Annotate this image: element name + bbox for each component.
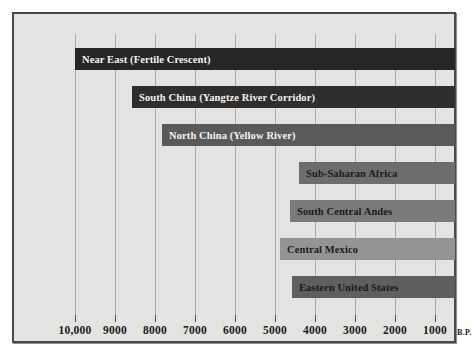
gridline bbox=[155, 34, 156, 315]
gridline bbox=[115, 34, 116, 315]
bar-label: Central Mexico bbox=[280, 244, 358, 255]
bar-south-central-andes: South Central Andes bbox=[290, 200, 455, 222]
bar-central-mexico: Central Mexico bbox=[280, 238, 455, 260]
x-tick-label: 5000 bbox=[263, 324, 287, 336]
x-tick-label: 6000 bbox=[223, 324, 247, 336]
bar-label: Near East (Fertile Crescent) bbox=[75, 54, 211, 65]
x-tick-label: 7000 bbox=[183, 324, 207, 336]
bar-label: Eastern United States bbox=[292, 282, 399, 293]
x-tick bbox=[355, 315, 356, 322]
x-tick-label: 9000 bbox=[103, 324, 127, 336]
gridline bbox=[195, 34, 196, 315]
x-tick bbox=[155, 315, 156, 322]
bar-eastern-united-states: Eastern United States bbox=[292, 276, 455, 298]
x-tick-label: 1000 bbox=[423, 324, 447, 336]
x-tick-label: 4000 bbox=[303, 324, 327, 336]
bar-label: North China (Yellow River) bbox=[162, 130, 296, 141]
bar-label: South Central Andes bbox=[290, 206, 392, 217]
bar-south-china-yangtze-river-corridor: South China (Yangtze River Corridor) bbox=[132, 86, 455, 108]
x-tick bbox=[75, 315, 76, 322]
x-tick-label: 2000 bbox=[383, 324, 407, 336]
x-tick bbox=[435, 315, 436, 322]
bar-label: South China (Yangtze River Corridor) bbox=[132, 92, 315, 103]
x-tick bbox=[315, 315, 316, 322]
plot-area: Near East (Fertile Crescent)South China … bbox=[75, 34, 455, 315]
x-tick bbox=[395, 315, 396, 322]
x-tick bbox=[195, 315, 196, 322]
x-axis-unit-label: B.P. bbox=[457, 328, 472, 337]
x-axis: 10,0009000800070006000500040003000200010… bbox=[75, 315, 455, 355]
x-tick bbox=[235, 315, 236, 322]
bar-near-east-fertile-crescent: Near East (Fertile Crescent) bbox=[75, 48, 455, 70]
gridline bbox=[75, 34, 76, 315]
gridline bbox=[275, 34, 276, 315]
x-tick-label: 10,000 bbox=[59, 324, 92, 336]
x-tick-label: 8000 bbox=[143, 324, 167, 336]
bar-sub-saharan-africa: Sub-Saharan Africa bbox=[299, 162, 455, 184]
x-tick bbox=[275, 315, 276, 322]
chart-plate: Near East (Fertile Crescent)South China … bbox=[12, 12, 456, 343]
x-tick bbox=[115, 315, 116, 322]
bar-label: Sub-Saharan Africa bbox=[299, 168, 397, 179]
x-tick-label: 3000 bbox=[343, 324, 367, 336]
gridline bbox=[235, 34, 236, 315]
bar-north-china-yellow-river: North China (Yellow River) bbox=[162, 124, 455, 146]
